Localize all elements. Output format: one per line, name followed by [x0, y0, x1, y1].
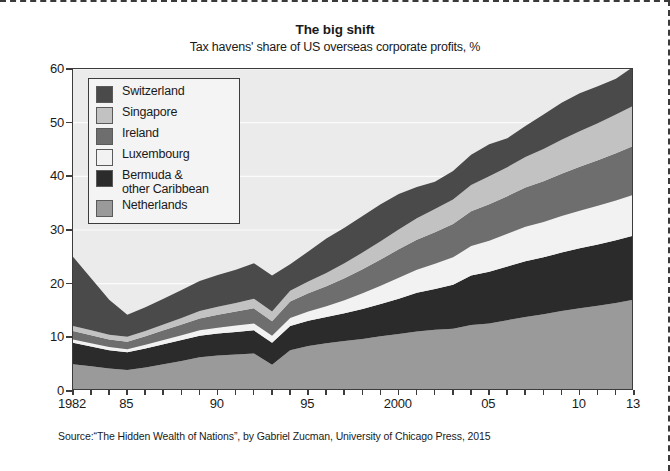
y-axis-label: 60	[24, 61, 64, 76]
x-axis-tick	[271, 390, 273, 395]
x-axis-tick	[181, 390, 183, 395]
x-axis-tick	[90, 390, 92, 395]
legend-item: Netherlands	[96, 199, 232, 217]
x-axis-tick	[343, 390, 345, 395]
x-axis-tick	[579, 390, 581, 395]
source-note: Source:“The Hidden Wealth of Nations”, b…	[58, 430, 491, 442]
x-axis-tick	[452, 390, 454, 395]
x-axis-tick	[325, 390, 327, 395]
chart-subtitle: Tax havens' share of US overseas corpora…	[0, 40, 670, 54]
x-axis-tick	[524, 390, 526, 395]
legend-item: Singapore	[96, 106, 232, 124]
y-axis-tick	[66, 68, 72, 70]
x-axis-tick	[144, 390, 146, 395]
x-axis-label: 2000	[384, 396, 412, 411]
legend-swatch	[96, 149, 113, 166]
y-axis-label: 20	[24, 275, 64, 290]
x-axis-tick	[289, 390, 291, 395]
legend-swatch	[96, 170, 113, 187]
x-axis-tick	[235, 390, 237, 395]
y-axis-tick	[66, 336, 72, 338]
y-axis-label: 10	[24, 329, 64, 344]
x-axis-tick	[307, 390, 309, 395]
x-axis-tick	[434, 390, 436, 395]
x-axis-tick	[416, 390, 418, 395]
y-axis-label: 50	[24, 114, 64, 129]
x-axis-label: 13	[626, 396, 640, 411]
x-axis-tick	[126, 390, 128, 395]
x-axis-tick	[506, 390, 508, 395]
x-axis-label: 85	[119, 396, 133, 411]
x-axis-tick	[162, 390, 164, 395]
legend-label: Ireland	[122, 127, 159, 141]
legend-label: Netherlands	[122, 199, 187, 213]
x-axis-tick	[217, 390, 219, 395]
legend-label: Switzerland	[122, 85, 184, 99]
chart-title: The big shift	[0, 22, 670, 37]
x-axis-tick	[72, 390, 74, 395]
x-axis-label: 05	[481, 396, 495, 411]
x-axis-tick	[615, 390, 617, 395]
legend-swatch	[96, 200, 113, 217]
x-axis-label: 10	[572, 396, 586, 411]
x-axis-tick	[470, 390, 472, 395]
legend-item: Ireland	[96, 127, 232, 145]
y-axis-tick	[66, 175, 72, 177]
x-axis-tick	[543, 390, 545, 395]
x-axis-label: 95	[300, 396, 314, 411]
y-axis-label: 30	[24, 222, 64, 237]
y-axis-tick	[66, 229, 72, 231]
x-axis-tick	[108, 390, 110, 395]
legend-label: Luxembourg	[122, 148, 190, 162]
legend-item: Luxembourg	[96, 148, 232, 166]
legend-swatch	[96, 107, 113, 124]
legend-label: Bermuda & other Caribbean	[122, 169, 209, 196]
x-axis-tick	[380, 390, 382, 395]
x-axis-tick	[488, 390, 490, 395]
legend-swatch	[96, 86, 113, 103]
legend-item: Switzerland	[96, 85, 232, 103]
x-axis-tick	[253, 390, 255, 395]
legend-label: Singapore	[122, 106, 177, 120]
x-axis-tick	[633, 390, 635, 395]
x-axis-tick	[398, 390, 400, 395]
x-axis-tick	[597, 390, 599, 395]
x-axis-tick	[561, 390, 563, 395]
legend-item: Bermuda & other Caribbean	[96, 169, 232, 196]
x-axis-label: 1982	[58, 396, 86, 411]
x-axis-label: 90	[210, 396, 224, 411]
y-axis-tick	[66, 122, 72, 124]
x-axis-tick	[362, 390, 364, 395]
x-axis-tick	[199, 390, 201, 395]
y-axis-tick	[66, 283, 72, 285]
legend-swatch	[96, 128, 113, 145]
y-axis-label: 40	[24, 168, 64, 183]
chart-legend: SwitzerlandSingaporeIrelandLuxembourgBer…	[88, 78, 240, 224]
